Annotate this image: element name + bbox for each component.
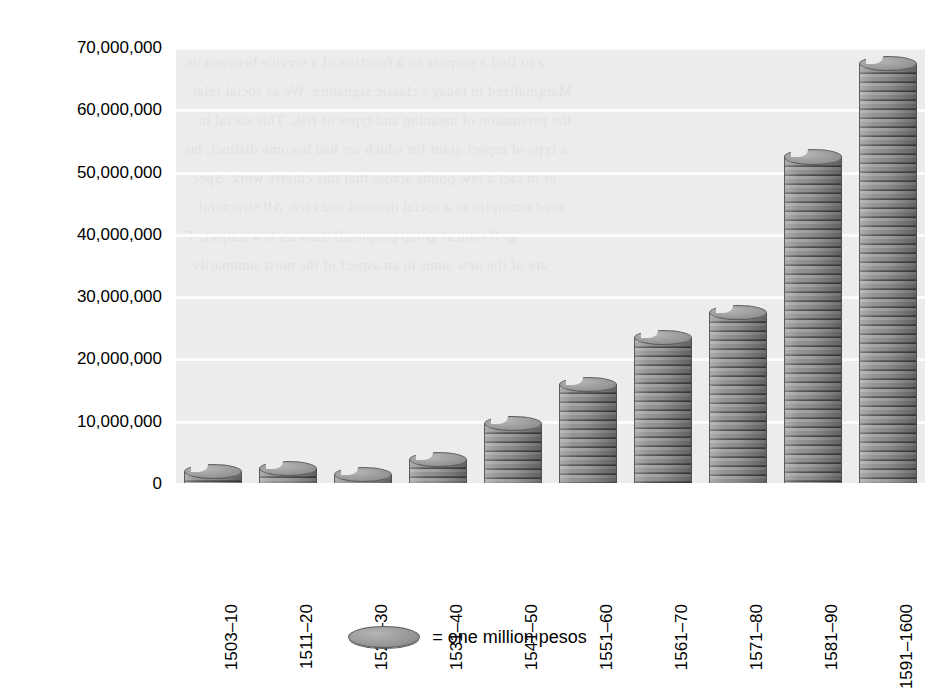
coin-stack-bar <box>409 452 467 484</box>
coin-stack-bar <box>334 467 392 484</box>
coin-stack-bar <box>484 416 542 484</box>
plot-area: a to find a purpose or a function of a s… <box>176 48 925 484</box>
y-axis-tick-label: 0 <box>153 474 162 494</box>
y-axis-tick-label: 10,000,000 <box>77 412 162 432</box>
y-axis-tick-label: 30,000,000 <box>77 287 162 307</box>
coin-stack-bar <box>784 149 842 484</box>
x-axis: 1503–101511–201521–301531–401541–501551–… <box>176 486 925 611</box>
coin-stack-bar <box>559 377 617 484</box>
y-axis-tick-label: 50,000,000 <box>77 163 162 183</box>
legend-label: = one million pesos <box>432 627 587 648</box>
coin-stack-body <box>784 157 842 484</box>
coin-stack-body <box>634 338 692 484</box>
bar-series <box>176 48 925 484</box>
y-axis-tick-label: 40,000,000 <box>77 225 162 245</box>
coin-stack-bar <box>259 461 317 484</box>
y-axis-tick-label: 20,000,000 <box>77 349 162 369</box>
coin-stack-body <box>484 424 542 484</box>
y-axis-tick-label: 60,000,000 <box>77 100 162 120</box>
coin-stack-bar <box>859 56 917 484</box>
coin-stack-body <box>859 64 917 484</box>
coin-disc-icon <box>348 626 420 648</box>
coin-stack-bar <box>184 464 242 484</box>
y-axis: 010,000,00020,000,00030,000,00040,000,00… <box>0 48 176 484</box>
coin-stack-bar <box>634 330 692 484</box>
coin-stack-body <box>709 313 767 484</box>
chart-legend: = one million pesos <box>0 617 935 657</box>
coin-stack-body <box>559 384 617 484</box>
axis-baseline <box>176 483 925 485</box>
y-axis-tick-label: 70,000,000 <box>77 38 162 58</box>
coin-stack-bar <box>709 305 767 484</box>
